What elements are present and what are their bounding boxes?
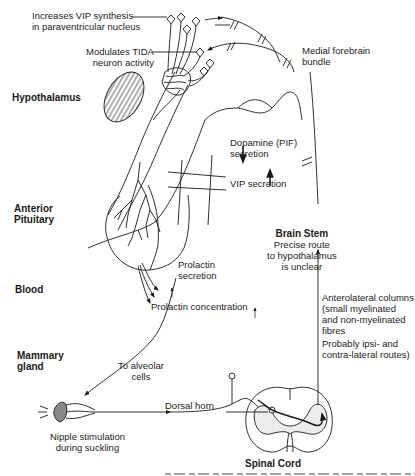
label-line: bundle [302,56,370,67]
region-blood: Blood [15,284,43,295]
label-line: gland [17,361,64,372]
cropped-caption-line [165,470,415,476]
label-line: is unclear [267,261,337,272]
label-line: Pituitary [14,214,54,225]
label-line: cells [118,371,164,382]
label-line: Anterolateral columns [322,292,414,303]
label-line: Precise route [267,239,337,250]
region-spinal-cord: Spinal Cord [245,458,301,469]
label-prolactin-concentration: Prolactin concentration [151,301,248,312]
label-dopamine: Dopamine (PIF) secretion [230,137,297,159]
label-vip-secretion: VIP secretion [230,178,286,189]
label-dorsal-horn: Dorsal horn [165,400,214,411]
hatched-oval [96,65,152,129]
region-brain-stem: Brain Stem [267,228,337,239]
label-line: Modulates TIDA [86,46,154,57]
label-line: to hypothalamus [267,250,337,261]
label-mfb: Medial forebrain bundle [302,45,370,67]
label-alveolar: To alveolar cells [118,360,164,382]
label-line: Mammary [17,350,64,361]
label-line: during suckling [50,442,125,453]
label-line: fibres [322,325,414,336]
label-line: neuron activity [86,57,154,68]
label-line: Anterior [14,203,54,214]
neuron-cells [167,13,214,86]
region-mammary-gland: Mammary gland [17,350,64,372]
label-line: and non-myelinated [322,314,414,325]
label-anterolateral: Anterolateral columns (small myelinated … [322,292,414,360]
region-anterior-pituitary: Anterior Pituitary [14,203,54,225]
label-line: Probably ipsi- and [322,338,414,349]
label-line: secretion [230,148,297,159]
label-line: Medial forebrain [302,45,370,56]
nipple-icon [38,402,95,422]
label-line: in paraventricular nucleus [32,21,140,32]
label-line: Nipple stimulation [50,431,125,442]
label-nipple: Nipple stimulation during suckling [50,431,125,453]
label-brain-stem: Brain Stem Precise route to hypothalamus… [267,228,337,272]
label-prolactin-secretion: Prolactin secretion [178,259,217,281]
label-tida: Modulates TIDA neuron activity [86,46,154,68]
label-line: (small myelinated [322,303,414,314]
label-line: Increases VIP synthesis [32,10,140,21]
label-line: contra-lateral routes) [322,349,414,360]
label-line: Dopamine (PIF) [230,137,297,148]
label-line: Prolactin [178,259,217,270]
label-line: secretion [178,270,217,281]
label-vip-synthesis: Increases VIP synthesis in paraventricul… [32,10,140,32]
label-line: To alveolar [118,360,164,371]
region-hypothalamus: Hypothalamus [12,92,81,103]
